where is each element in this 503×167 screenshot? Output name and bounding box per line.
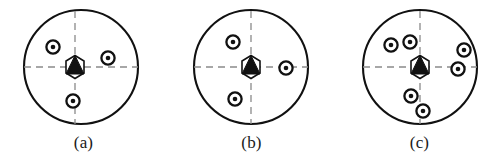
node-marker — [416, 104, 429, 117]
node-marker — [46, 40, 59, 53]
node-marker — [457, 43, 470, 56]
panel-a-caption: (a) — [0, 131, 167, 155]
node-marker — [66, 94, 79, 107]
panel-a: (a) — [0, 0, 167, 167]
panel-a-diagram — [0, 0, 167, 135]
panel-c-caption: (c) — [336, 131, 503, 155]
node-marker — [404, 89, 417, 102]
node-marker — [101, 51, 114, 64]
node-marker — [384, 38, 397, 51]
panel-c: (c) — [336, 0, 503, 167]
node-marker — [228, 92, 241, 105]
node-marker — [226, 35, 239, 48]
node-marker — [403, 35, 416, 48]
node-marker — [451, 62, 464, 75]
panel-b-caption: (b) — [168, 131, 335, 155]
panel-a-center-marker — [66, 56, 84, 79]
figure-container: (a) — [0, 0, 503, 167]
panel-c-center-marker — [411, 56, 429, 79]
panel-b: (b) — [168, 0, 335, 167]
node-marker — [279, 61, 292, 74]
panel-c-diagram — [336, 0, 503, 135]
panel-b-center-marker — [242, 56, 260, 79]
panel-b-diagram — [168, 0, 335, 135]
